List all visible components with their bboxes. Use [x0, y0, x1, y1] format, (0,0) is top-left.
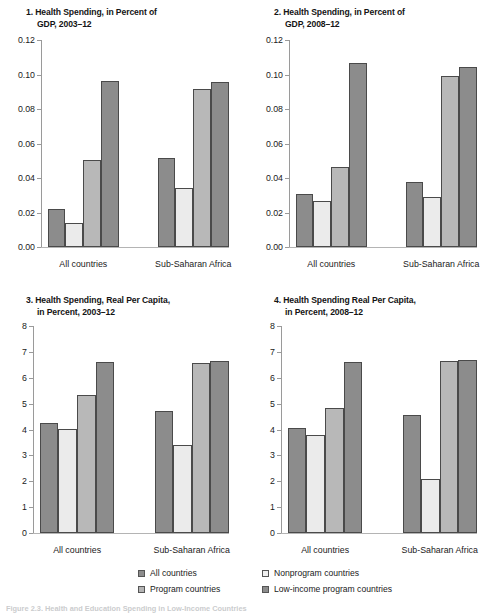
- y-axis-tick-label: 0.10: [266, 70, 283, 80]
- bar: [192, 363, 211, 533]
- bar: [58, 429, 77, 533]
- y-axis-tick-label: 0: [22, 528, 27, 538]
- legend-item: Nonprogram countries: [262, 568, 359, 578]
- y-axis-tick-label: 0.10: [18, 70, 35, 80]
- panel-title: 3. Health Spending, Real Per Capita, in …: [26, 294, 241, 319]
- y-axis-tick: [285, 247, 289, 248]
- bar: [331, 167, 349, 247]
- x-axis-line: [281, 533, 477, 534]
- y-axis-tick-label: 6: [270, 373, 275, 383]
- chart-panel-1: 1. Health Spending, in Percent of GDP, 2…: [0, 0, 247, 288]
- bar-group: [41, 40, 229, 247]
- panel-title-line2: in Percent, 2008–12: [274, 306, 489, 318]
- bar: [193, 89, 211, 247]
- bar: [288, 428, 307, 533]
- x-axis-line: [33, 533, 229, 534]
- bar-group: [289, 40, 477, 247]
- figure-container: 1. Health Spending, in Percent of GDP, 2…: [0, 0, 495, 615]
- y-axis-tick-label: 7: [22, 347, 27, 357]
- legend-label: Low-income program countries: [274, 584, 392, 594]
- bar: [344, 362, 363, 533]
- x-axis-category-label: All countries: [307, 259, 355, 269]
- x-axis-category-label: All countries: [59, 259, 107, 269]
- bar: [173, 445, 192, 533]
- bar: [421, 479, 440, 533]
- bar: [458, 360, 477, 533]
- y-axis-tick-label: 6: [22, 373, 27, 383]
- bar: [403, 415, 422, 533]
- y-axis-tick-label: 1: [270, 502, 275, 512]
- legend-item: All countries: [138, 568, 197, 578]
- panel-title-line1: 2. Health Spending, in Percent of: [274, 6, 489, 18]
- y-axis-tick-label: 4: [270, 425, 275, 435]
- bar: [77, 395, 96, 533]
- x-axis-line: [41, 247, 229, 248]
- y-axis-tick-label: 0.12: [266, 35, 283, 45]
- y-axis-tick: [277, 533, 281, 534]
- panel-title: 1. Health Spending, in Percent of GDP, 2…: [26, 6, 241, 31]
- bar: [325, 408, 344, 533]
- panel-title-line1: 3. Health Spending, Real Per Capita,: [26, 294, 241, 306]
- bar: [406, 182, 424, 247]
- panel-title-line2: in Percent, 2003–12: [26, 306, 241, 318]
- legend-swatch-icon: [138, 570, 145, 577]
- y-axis-tick-label: 2: [22, 476, 27, 486]
- panel-title-line1: 4. Health Spending Real Per Capita,: [274, 294, 489, 306]
- bar: [306, 435, 325, 533]
- chart-panel-2: 2. Health Spending, in Percent of GDP, 2…: [248, 0, 495, 288]
- y-axis-tick-label: 7: [270, 347, 275, 357]
- y-axis-tick-label: 4: [22, 425, 27, 435]
- bar: [349, 63, 367, 247]
- y-axis-tick-label: 0.08: [266, 104, 283, 114]
- panel-title: 4. Health Spending Real Per Capita, in P…: [274, 294, 489, 319]
- chart-panel-3: 3. Health Spending, Real Per Capita, in …: [0, 288, 247, 576]
- x-axis-category-label: All countries: [53, 545, 101, 555]
- legend-swatch-icon: [138, 586, 145, 593]
- y-axis-tick-label: 0.02: [266, 208, 283, 218]
- y-axis-tick-label: 1: [22, 502, 27, 512]
- x-axis-category-label: All countries: [301, 545, 349, 555]
- bar: [313, 201, 331, 247]
- y-axis-tick-label: 0.12: [18, 35, 35, 45]
- x-axis-category-label: Sub-Saharan Africa: [402, 545, 478, 555]
- bar: [158, 158, 176, 247]
- bar-group: [33, 326, 229, 533]
- chart-panel-4: 4. Health Spending Real Per Capita, in P…: [248, 288, 495, 576]
- x-axis-category-label: Sub-Saharan Africa: [154, 545, 230, 555]
- legend-swatch-icon: [262, 586, 269, 593]
- bar: [83, 160, 101, 247]
- legend-label: All countries: [150, 568, 197, 578]
- y-axis-tick-label: 0.02: [18, 208, 35, 218]
- y-axis-tick-label: 3: [22, 450, 27, 460]
- panel-title-line2: GDP, 2008–12: [274, 18, 489, 30]
- y-axis-tick: [37, 247, 41, 248]
- plot-area: 012345678 All countriesSub-Saharan Afric…: [33, 326, 229, 534]
- bar-group: [281, 326, 477, 533]
- bar: [155, 411, 174, 533]
- legend-label: Program countries: [150, 584, 220, 594]
- figure-caption: Figure 2.3. Health and Education Spendin…: [6, 604, 476, 615]
- y-axis-tick: [29, 533, 33, 534]
- y-axis-tick-label: 5: [22, 399, 27, 409]
- legend-item: Low-income program countries: [262, 584, 392, 594]
- bar: [65, 223, 83, 247]
- panel-title-line1: 1. Health Spending, in Percent of: [26, 6, 241, 18]
- plot-area: 0.000.020.040.060.080.100.12 All countri…: [41, 40, 229, 248]
- y-axis-tick-label: 2: [270, 476, 275, 486]
- y-axis-tick-label: 5: [270, 399, 275, 409]
- bar: [440, 361, 459, 533]
- plot-area: 012345678 All countriesSub-Saharan Afric…: [281, 326, 477, 534]
- x-axis-line: [289, 247, 477, 248]
- x-axis-category-label: Sub-Saharan Africa: [155, 259, 231, 269]
- y-axis-tick-label: 8: [270, 321, 275, 331]
- legend-swatch-icon: [262, 570, 269, 577]
- bar: [48, 209, 66, 247]
- chart-legend: All countriesNonprogram countriesProgram…: [0, 566, 495, 600]
- y-axis-tick-label: 0.00: [18, 242, 35, 252]
- x-axis-category-label: Sub-Saharan Africa: [403, 259, 479, 269]
- y-axis-tick-label: 0.06: [266, 139, 283, 149]
- bar: [423, 197, 441, 247]
- y-axis-tick-label: 0: [270, 528, 275, 538]
- plot-area: 0.000.020.040.060.080.100.12 All countri…: [289, 40, 477, 248]
- bar: [210, 361, 229, 533]
